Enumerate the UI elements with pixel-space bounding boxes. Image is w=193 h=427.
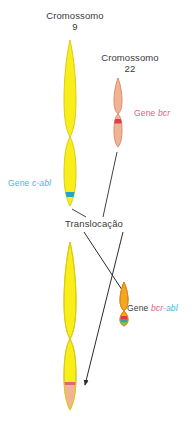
bcr-abl-fusion-band-green [118,322,130,326]
leader-line-chr9-translocation [72,209,86,217]
gene-c-abl-band [62,192,78,197]
philadelphia-chromosome [118,282,130,326]
gene-bcr-band [112,119,124,124]
leader-line-chr22-translocation [103,152,117,217]
chromosome-9-body [64,40,76,206]
translocation-arrow-to-derivative-9 [85,232,123,385]
figure-canvas: Cromossomo 9 Cromossomo 22 Translocação … [0,0,193,427]
diagram-artwork [0,0,193,427]
chromosome-22 [112,78,124,147]
derivative-chromosome-9 [62,242,78,412]
chromosome-9 [62,40,78,206]
chromosome-22-body [114,78,122,147]
